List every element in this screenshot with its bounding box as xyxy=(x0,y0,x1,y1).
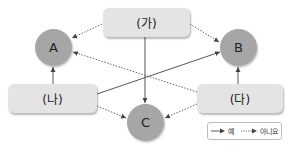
legend-no-label: 아니요 xyxy=(260,126,278,136)
box-ga-label: (가) xyxy=(136,14,156,31)
edge-ga-to-a xyxy=(72,24,102,38)
edge-na-to-c xyxy=(97,106,126,118)
edge-ga-to-b xyxy=(190,24,219,42)
box-da-label: (다) xyxy=(230,90,250,107)
box-ga: (가) xyxy=(103,8,190,37)
legend-yes-label: 예 xyxy=(228,126,234,136)
box-na: (나) xyxy=(8,84,97,113)
edge-da-to-c xyxy=(165,104,197,118)
node-a-label: A xyxy=(49,40,58,55)
node-a: A xyxy=(35,29,72,66)
node-b-label: B xyxy=(234,40,243,55)
legend: 예 아니요 xyxy=(207,122,282,140)
solid-arrow-icon xyxy=(211,128,225,134)
node-b: B xyxy=(220,29,257,66)
box-na-label: (나) xyxy=(42,90,62,107)
box-da: (다) xyxy=(197,84,283,113)
node-c: C xyxy=(127,104,164,141)
node-c-label: C xyxy=(141,115,150,130)
dotted-arrow-icon xyxy=(241,128,257,134)
diagram-canvas: (가) (나) (다) A B C 예 아니요 xyxy=(0,0,295,152)
